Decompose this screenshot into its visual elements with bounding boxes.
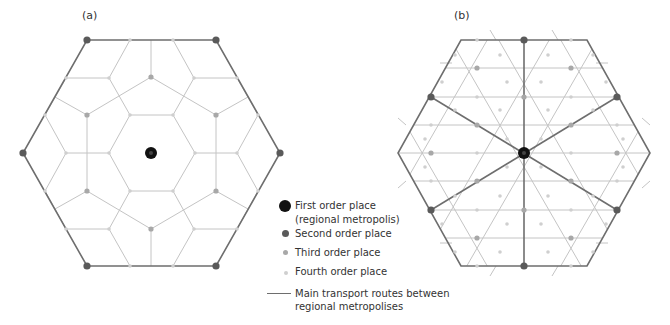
fourth-order-place [423, 165, 427, 169]
fourth-order-place [615, 179, 619, 183]
third-order-place [568, 178, 573, 183]
fourth-order-place [539, 137, 543, 141]
third-order-place [474, 178, 479, 183]
fourth-order-place [235, 151, 239, 155]
market-area-boundary [603, 30, 650, 111]
boundary-tick [642, 118, 650, 125]
first-order-place-core [522, 151, 526, 155]
fourth-order-place [546, 194, 550, 198]
boundary-tick [490, 266, 496, 276]
fourth-order-place [429, 179, 433, 183]
fourth-order-place [171, 264, 175, 268]
fourth-order-place [498, 194, 502, 198]
second-order-place [19, 149, 26, 156]
market-area-boundary [55, 97, 87, 115]
fourth-order-place [64, 76, 68, 80]
fourth-order-place [591, 53, 595, 57]
third-order-place [521, 94, 526, 99]
second-order-place-icon [282, 230, 289, 237]
fourth-order-place [475, 95, 479, 99]
second-order-place [212, 36, 219, 43]
fourth-order-place [615, 123, 619, 127]
market-area-boundary [398, 30, 445, 111]
second-order-place [83, 262, 90, 269]
market-area-boundary [45, 115, 66, 153]
fourth-order-place [539, 165, 543, 169]
fourth-order-place [505, 165, 509, 169]
fourth-order-place [591, 108, 595, 112]
market-area-boundary [87, 77, 151, 115]
fourth-order-place [256, 113, 260, 117]
first-order-place-core [149, 151, 153, 155]
third-order-place [568, 235, 573, 240]
fourth-order-place [621, 165, 625, 169]
transport-route-line-icon [267, 293, 291, 294]
boundary-tick [398, 118, 406, 125]
fourth-order-place [128, 264, 132, 268]
market-area-boundary [173, 40, 194, 78]
fourth-order-place [475, 264, 479, 268]
boundary-tick [552, 266, 558, 276]
fourth-order-place [569, 151, 573, 155]
fourth-order-place [43, 113, 47, 117]
market-area-boundary [109, 115, 130, 153]
fourth-order-place [107, 151, 111, 155]
market-area-boundary [173, 229, 194, 266]
market-area-boundary [173, 153, 195, 191]
fourth-order-place [546, 250, 550, 254]
third-order-place [148, 226, 153, 231]
fourth-order-place [128, 38, 132, 42]
third-order-place [474, 65, 479, 70]
fourth-order-place [475, 38, 479, 42]
fourth-order-place [498, 108, 502, 112]
fourth-order-place [235, 76, 239, 80]
fourth-order-place [171, 38, 175, 42]
fourth-order-place [192, 227, 196, 231]
second-order-place [427, 93, 434, 100]
fourth-order-place [569, 264, 573, 268]
fourth-order-place [475, 151, 479, 155]
legend-label: Third order place [295, 246, 380, 259]
market-area-boundary [398, 30, 493, 195]
fourth-order-place [546, 108, 550, 112]
diagram-a [19, 36, 283, 269]
fourth-order-place-icon [284, 271, 288, 275]
market-area-boundary [151, 77, 216, 115]
third-order-place [84, 188, 89, 193]
fourth-order-place [569, 95, 573, 99]
legend-label: Second order place [295, 227, 392, 240]
market-area-boundary [237, 153, 258, 191]
fourth-order-place [453, 108, 457, 112]
fourth-order-place [498, 53, 502, 57]
fourth-order-place [43, 189, 47, 193]
fourth-order-place [440, 80, 444, 84]
boundary-tick [398, 181, 406, 188]
fourth-order-place [505, 222, 509, 226]
legend-label: Fourth order place [295, 265, 387, 278]
fourth-order-place [453, 250, 457, 254]
fourth-order-place [621, 137, 625, 141]
fourth-order-place [505, 137, 509, 141]
legend-label-secondary: (regional metropolis) [295, 213, 400, 226]
market-area-boundary [109, 191, 130, 229]
boundary-tick [552, 30, 558, 40]
fourth-order-place [604, 80, 608, 84]
fourth-order-place [423, 137, 427, 141]
diagram-b [398, 30, 650, 276]
fourth-order-place [591, 250, 595, 254]
market-area-boundary [555, 111, 650, 276]
first-order-place-icon [279, 200, 291, 212]
third-order-place-icon [283, 250, 288, 255]
fourth-order-place [128, 189, 132, 193]
fourth-order-place [107, 76, 111, 80]
market-area-boundary [237, 115, 258, 153]
second-order-place [520, 262, 527, 269]
fourth-order-place [171, 189, 175, 193]
boundary-tick [490, 30, 496, 40]
fourth-order-place [193, 151, 197, 155]
fourth-order-place [64, 151, 68, 155]
third-order-place [213, 188, 218, 193]
third-order-place [213, 112, 218, 117]
second-order-place [276, 149, 283, 156]
third-order-place [148, 74, 153, 79]
